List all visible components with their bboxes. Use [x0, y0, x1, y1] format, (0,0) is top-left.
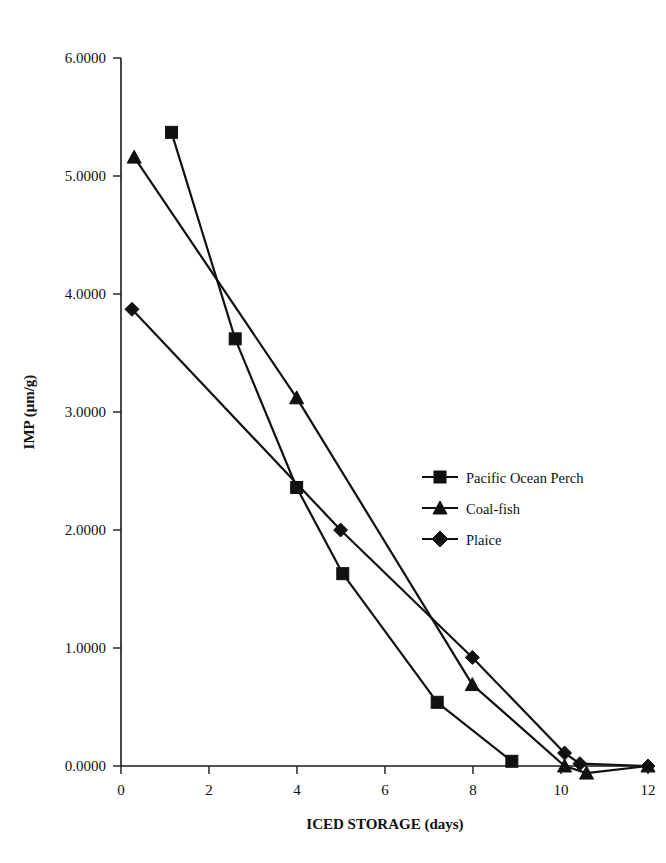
- series-line-path: [134, 157, 648, 773]
- data-point-triangle-marker: [290, 391, 304, 404]
- legend-label-coal-fish: Coal-fish: [466, 501, 521, 517]
- y-tick-label-1: 1.0000: [65, 640, 106, 656]
- data-point-square-marker: [229, 333, 241, 345]
- series-line-path: [132, 309, 648, 766]
- data-point-square-marker: [506, 755, 518, 767]
- legend-label-pacific-ocean-perch: Pacific Ocean Perch: [466, 470, 584, 486]
- figure-page: 0.0000 1.0000 2.0000 3.0000 4.0000 5.000…: [0, 0, 666, 863]
- line-chart-svg: 0.0000 1.0000 2.0000 3.0000 4.0000 5.000…: [0, 0, 666, 863]
- chart-legend: Pacific Ocean Perch Coal-fish Plaice: [422, 470, 584, 548]
- data-point-triangle-marker: [465, 678, 479, 691]
- x-tick-label-6: 6: [381, 782, 389, 798]
- series-plaice: [125, 302, 655, 773]
- series-layer: [125, 126, 655, 779]
- legend-square-marker-icon: [434, 471, 446, 483]
- x-tick-label-0: 0: [117, 782, 125, 798]
- data-point-square-marker: [166, 126, 178, 138]
- data-point-triangle-marker: [127, 150, 141, 163]
- y-tick-label-4: 4.0000: [65, 286, 106, 302]
- x-tick-label-2: 2: [205, 782, 213, 798]
- legend-diamond-marker-icon: [432, 531, 448, 547]
- y-axis-ticks: [113, 58, 121, 766]
- legend-entry-coal-fish[interactable]: Coal-fish: [422, 501, 521, 517]
- y-tick-label-2: 2.0000: [65, 522, 106, 538]
- x-axis-title: ICED STORAGE (days): [306, 816, 463, 833]
- y-axis-tick-labels: 0.0000 1.0000 2.0000 3.0000 4.0000 5.000…: [65, 50, 106, 774]
- y-tick-label-3: 3.0000: [65, 404, 106, 420]
- legend-entry-pacific-ocean-perch[interactable]: Pacific Ocean Perch: [422, 470, 584, 486]
- legend-entry-plaice[interactable]: Plaice: [422, 531, 501, 548]
- x-tick-label-10: 10: [554, 782, 569, 798]
- data-point-square-marker: [337, 568, 349, 580]
- x-tick-label-4: 4: [293, 782, 301, 798]
- x-tick-label-8: 8: [469, 782, 477, 798]
- y-tick-label-5: 5.0000: [65, 168, 106, 184]
- y-tick-label-0: 0.0000: [65, 758, 106, 774]
- data-point-square-marker: [431, 696, 443, 708]
- chart-figure: 0.0000 1.0000 2.0000 3.0000 4.0000 5.000…: [0, 0, 666, 863]
- y-tick-label-6: 6.0000: [65, 50, 106, 66]
- x-axis-tick-labels: 0 2 4 6 8 10 12: [117, 782, 655, 798]
- y-axis-title: IMP (μm/g): [21, 375, 38, 450]
- x-tick-label-12: 12: [641, 782, 656, 798]
- legend-label-plaice: Plaice: [466, 532, 501, 548]
